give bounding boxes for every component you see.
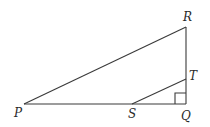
triangle-diagram: R T Q P S bbox=[0, 0, 210, 127]
segment-PR bbox=[24, 27, 186, 104]
label-P: P bbox=[13, 106, 23, 120]
label-T: T bbox=[189, 69, 198, 83]
label-S: S bbox=[128, 107, 136, 121]
segment-ST bbox=[132, 79, 186, 104]
right-angle-marker-icon bbox=[175, 93, 186, 104]
label-R: R bbox=[182, 10, 192, 24]
label-Q: Q bbox=[181, 109, 191, 123]
